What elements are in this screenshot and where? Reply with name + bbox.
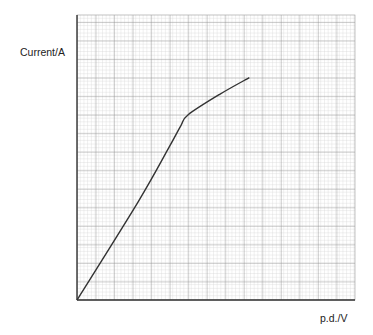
major-grid (77, 15, 355, 300)
y-axis-label: Current/A (20, 46, 65, 58)
x-axis-label: p.d./V (320, 312, 347, 324)
